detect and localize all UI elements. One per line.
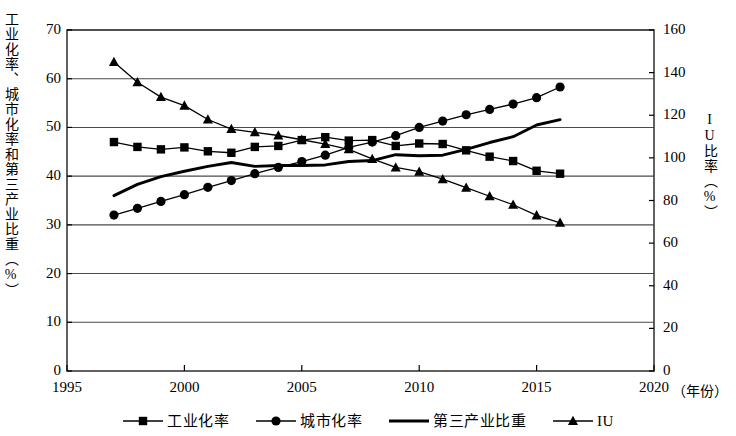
legend-label: 第三产业比重 <box>433 414 526 429</box>
data-point <box>109 57 119 66</box>
data-point <box>157 145 165 153</box>
data-point <box>180 143 188 151</box>
y-tick-label-right: 140 <box>663 65 703 80</box>
data-point <box>485 152 493 160</box>
data-point <box>485 105 494 114</box>
data-point <box>555 82 564 91</box>
legend-marker-triangle-icon <box>552 413 594 429</box>
y-axis-label-left: 工业化率、城市化率和第三产业比重（%） <box>3 12 18 384</box>
chart-figure <box>0 0 736 436</box>
legend-item-0[interactable]: 工业化率 <box>122 413 229 429</box>
data-point <box>203 114 213 123</box>
legend-symbol <box>139 417 147 425</box>
data-point <box>368 137 377 146</box>
y-tick-label-right: 160 <box>663 22 703 37</box>
data-point <box>321 151 330 160</box>
y-tick-label-left: 50 <box>27 119 61 134</box>
data-point <box>156 197 165 206</box>
data-point <box>438 140 446 148</box>
data-point <box>227 149 235 157</box>
y-tick-label-left: 70 <box>27 22 61 37</box>
data-point <box>391 131 400 140</box>
x-tick-label: 2005 <box>272 380 332 395</box>
y-tick-label-right: 40 <box>663 278 703 293</box>
legend-item-1[interactable]: 城市化率 <box>255 413 362 429</box>
plot-frame <box>67 30 654 371</box>
data-point <box>532 210 542 219</box>
data-point <box>156 92 166 101</box>
y-tick-label-right: 120 <box>663 107 703 122</box>
data-point <box>180 190 189 199</box>
x-tick-label: 2015 <box>507 380 567 395</box>
x-tick-label: 2000 <box>154 380 214 395</box>
legend-label: IU <box>597 414 614 429</box>
y-tick-label-right: 20 <box>663 320 703 335</box>
gridlines <box>67 30 654 322</box>
data-point <box>462 110 471 119</box>
legend-label: 工业化率 <box>167 414 229 429</box>
y-tick-label-right: 80 <box>663 193 703 208</box>
y-tick-label-left: 20 <box>27 266 61 281</box>
y-axis-label-right: IU比率（%） <box>702 112 717 384</box>
legend-label: 城市化率 <box>300 414 362 429</box>
y-tick-label-left: 0 <box>27 363 61 378</box>
data-point <box>203 183 212 192</box>
legend-item-2[interactable]: 第三产业比重 <box>388 413 526 429</box>
data-point <box>438 116 447 125</box>
x-tick-label: 2010 <box>389 380 449 395</box>
data-point <box>532 167 540 175</box>
data-point <box>133 143 141 151</box>
legend-marker-square-icon <box>122 413 164 429</box>
series-layer <box>109 57 565 227</box>
data-point <box>509 99 518 108</box>
data-point <box>509 157 517 165</box>
data-point <box>251 143 259 151</box>
data-point <box>109 211 118 220</box>
legend-symbol <box>271 416 280 425</box>
plot-border <box>67 30 654 371</box>
data-point <box>415 123 424 132</box>
y-tick-label-right: 60 <box>663 235 703 250</box>
data-point <box>532 93 541 102</box>
x-tick-label: 1995 <box>37 380 97 395</box>
data-point <box>274 142 282 150</box>
y-tick-label-right: 100 <box>663 150 703 165</box>
chart-legend: 工业化率城市化率第三产业比重IU <box>0 406 736 436</box>
data-point <box>226 124 236 133</box>
data-point <box>133 204 142 213</box>
y-tick-label-left: 60 <box>27 71 61 86</box>
data-point <box>227 176 236 185</box>
y-tick-label-right: 0 <box>663 363 703 378</box>
legend-item-3[interactable]: IU <box>552 413 614 429</box>
data-point <box>204 147 212 155</box>
y-tick-label-left: 30 <box>27 217 61 232</box>
x-tick-label: 2020 <box>624 380 684 395</box>
legend-marker-circle-icon <box>255 413 297 429</box>
data-point <box>556 170 564 178</box>
y-tick-label-left: 10 <box>27 314 61 329</box>
data-point <box>250 169 259 178</box>
data-point <box>392 142 400 150</box>
y-tick-label-left: 40 <box>27 168 61 183</box>
legend-marker-none-icon <box>388 413 430 429</box>
data-point <box>415 139 423 147</box>
data-point <box>110 138 118 146</box>
tick-marks <box>67 30 654 371</box>
